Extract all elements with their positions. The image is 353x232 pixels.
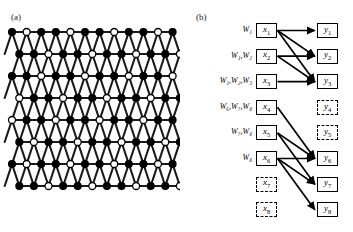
w-label-x6: W₈	[180, 154, 252, 162]
lattice-filled-node	[118, 95, 125, 102]
lattice-filled-node	[140, 29, 147, 36]
lattice-open-node	[147, 95, 154, 102]
node-label: y7	[324, 178, 331, 189]
lattice-filled-node	[140, 73, 147, 80]
panel-a-label: (a)	[11, 12, 21, 22]
lattice-filled-node	[16, 51, 23, 58]
lattice-open-node	[74, 139, 81, 146]
lattice-open-node	[155, 29, 162, 36]
lattice-filled-node	[169, 117, 176, 124]
lattice-filled-node	[74, 51, 81, 58]
lattice-open-node	[30, 139, 37, 146]
lattice-open-node	[133, 183, 140, 190]
lattice-filled-node	[60, 183, 67, 190]
lattice-filled-node	[52, 73, 59, 80]
lattice-filled-node	[96, 161, 103, 168]
lattice-filled-node	[38, 29, 45, 36]
lattice-filled-node	[118, 183, 125, 190]
lattice-filled-node	[82, 161, 89, 168]
lattice-filled-node	[111, 117, 118, 124]
edge-x5-y6	[278, 133, 315, 159]
y-node-y2[interactable]: y2	[317, 49, 338, 64]
lattice-filled-node	[60, 139, 67, 146]
lattice-filled-node	[155, 73, 162, 80]
lattice-filled-node	[16, 139, 23, 146]
lattice-filled-node	[23, 73, 30, 80]
y-node-y4[interactable]: y4	[317, 100, 338, 115]
lattice-filled-node	[23, 117, 30, 124]
lattice-filled-node	[125, 117, 132, 124]
lattice-open-node	[23, 29, 30, 36]
node-label: y6	[324, 153, 331, 164]
x-node-x8[interactable]: x8	[256, 202, 277, 217]
lattice-open-node	[111, 29, 118, 36]
lattice-filled-node	[162, 51, 169, 58]
lattice-filled-node	[147, 183, 154, 190]
y-node-y7[interactable]: y7	[317, 177, 338, 192]
x-node-x7[interactable]: x7	[256, 177, 277, 192]
node-label: x6	[263, 153, 270, 164]
lattice-open-node	[89, 183, 96, 190]
y-node-y3[interactable]: y3	[317, 74, 338, 89]
x-node-x4[interactable]: x4	[256, 100, 277, 115]
node-label: y1	[324, 25, 331, 36]
node-label: x2	[263, 50, 270, 61]
node-label: x3	[263, 76, 270, 87]
lattice-filled-node	[89, 95, 96, 102]
lattice-filled-node	[74, 183, 81, 190]
x-node-x3[interactable]: x3	[256, 74, 277, 89]
edge-x4-y6	[278, 107, 315, 158]
x-node-x5[interactable]: x5	[256, 125, 277, 140]
lattice-open-node	[45, 183, 52, 190]
lattice-filled-node	[52, 29, 59, 36]
lattice-open-node	[67, 161, 74, 168]
lattice-filled-node	[162, 183, 169, 190]
lattice-open-node	[23, 161, 30, 168]
lattice-filled-node	[45, 95, 52, 102]
y-node-y6[interactable]: y6	[317, 151, 338, 166]
node-label: y4	[324, 102, 331, 113]
y-node-y5[interactable]: y5	[317, 125, 338, 140]
lattice-diagram	[0, 22, 180, 212]
y-node-y8[interactable]: y8	[317, 202, 338, 217]
lattice-filled-node	[60, 51, 67, 58]
y-node-y1[interactable]: y1	[317, 23, 338, 38]
lattice-filled-node	[118, 51, 125, 58]
node-label: y2	[324, 50, 331, 61]
lattice-filled-node	[31, 51, 38, 58]
lattice-open-node	[169, 73, 176, 80]
edge-x2-y3	[278, 56, 315, 82]
lattice-filled-node	[9, 73, 16, 80]
lattice-svg	[0, 22, 180, 212]
node-label: y8	[324, 204, 331, 215]
lattice-filled-node	[9, 161, 16, 168]
lattice-filled-node	[140, 161, 147, 168]
x-node-x2[interactable]: x2	[256, 49, 277, 64]
lattice-filled-node	[104, 51, 111, 58]
edge-x1-y2	[278, 31, 315, 57]
lattice-filled-node	[104, 139, 111, 146]
x-node-x6[interactable]: x6	[256, 151, 277, 166]
lattice-filled-node	[31, 183, 38, 190]
x-node-x1[interactable]: x1	[256, 23, 277, 38]
lattice-filled-node	[96, 29, 103, 36]
lattice-open-node	[67, 29, 74, 36]
lattice-open-node	[162, 139, 169, 146]
lattice-open-node	[9, 117, 16, 124]
lattice-open-node	[60, 95, 67, 102]
lattice-open-node	[125, 73, 132, 80]
lattice-filled-node	[133, 139, 140, 146]
edge-x6-y8	[278, 159, 315, 210]
lattice-open-node	[103, 95, 110, 102]
lattice-open-node	[111, 161, 118, 168]
node-label: y5	[324, 127, 331, 138]
lattice-filled-node	[45, 139, 52, 146]
lattice-open-node	[96, 117, 103, 124]
lattice-filled-node	[82, 29, 89, 36]
node-label: x7	[263, 178, 270, 189]
lattice-filled-node	[147, 51, 154, 58]
lattice-filled-node	[169, 29, 176, 36]
lattice-filled-node	[155, 117, 162, 124]
lattice-filled-node	[169, 161, 176, 168]
figure-root: (a) (b) x1x2x3x4x5x6x7x8 y1y2y3y4y5y6y7y…	[0, 0, 353, 232]
